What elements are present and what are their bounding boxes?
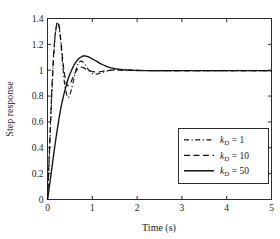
x-tick-label: 1	[90, 203, 95, 213]
x-tick-label: 5	[269, 203, 274, 213]
x-tick-label: 3	[180, 203, 185, 213]
y-tick-label: 0.2	[32, 169, 44, 179]
x-tick-label: 2	[135, 203, 140, 213]
y-tick-label: 0	[39, 195, 44, 205]
y-tick-label: 1.4	[32, 14, 44, 24]
y-tick-label: 0.4	[32, 143, 44, 153]
y-tick-labels: 00.20.40.60.811.21.4	[32, 14, 44, 205]
x-tick-labels: 012345	[45, 203, 274, 213]
x-tick-label: 0	[45, 203, 50, 213]
y-tick-label: 1.2	[32, 40, 44, 50]
y-tick-label: 1	[39, 66, 44, 76]
y-tick-label: 0.8	[32, 91, 44, 101]
x-axis-title: Time (s)	[142, 222, 176, 234]
step-response-chart: 012345 00.20.40.60.811.21.4 Time (s) Ste…	[0, 0, 280, 239]
x-tick-label: 4	[224, 203, 229, 213]
chart-legend: kD = 1kD = 10kD = 50	[179, 129, 269, 184]
y-axis-title: Step response	[4, 81, 15, 137]
y-tick-label: 0.6	[32, 117, 44, 127]
chart-screenshot: 012345 00.20.40.60.811.21.4 Time (s) Ste…	[0, 0, 280, 239]
